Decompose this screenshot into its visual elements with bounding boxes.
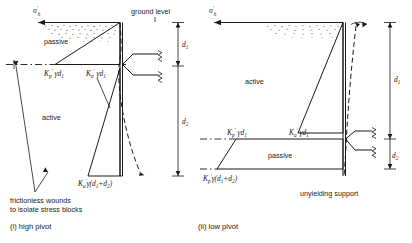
active-zone-label-high: active bbox=[42, 113, 61, 122]
depth-label-d2-low: d2 bbox=[392, 151, 399, 161]
passive-zone-label-low: passive bbox=[268, 151, 292, 160]
active-stress-block-high bbox=[88, 68, 120, 176]
depth-label-d1-low: d1 bbox=[394, 75, 401, 85]
active-stress-block-low bbox=[298, 23, 343, 134]
figure-container: σ′h ground level p bbox=[0, 0, 412, 243]
deflection-arrowhead-high bbox=[139, 172, 144, 176]
caption-low-pivot: (ii) low pivot bbox=[198, 222, 239, 231]
spring-symbol-upper-high bbox=[158, 51, 162, 62]
pressure-label-kp-gamma-d1-low: Kp′ γd1 bbox=[226, 127, 247, 138]
active-zone-label-low: active bbox=[245, 77, 264, 86]
caption-high-pivot: (i) high pivot bbox=[10, 222, 52, 231]
soil-stipple-hatch-right bbox=[268, 25, 339, 38]
note-line-1-high: frictionless wounds bbox=[10, 196, 71, 205]
stress-symbol-right: σ′h bbox=[209, 5, 217, 17]
prop-support-low bbox=[346, 128, 377, 158]
pressure-label-ka-gamma-d1d2-high: Ka′γ(d1+d2) bbox=[77, 178, 113, 189]
frictionless-wound-leaders-high bbox=[13, 60, 48, 192]
panel-low-pivot: σ′h active bbox=[198, 5, 401, 231]
depth-label-d2-high: d2 bbox=[182, 117, 189, 127]
spring-symbol-upper-low bbox=[372, 128, 376, 139]
ground-level-label: ground level bbox=[131, 7, 171, 16]
panel-high-pivot: σ′h ground level p bbox=[6, 5, 189, 231]
leader-line-ka-high bbox=[97, 78, 110, 108]
spring-symbol-lower-low bbox=[372, 147, 376, 158]
pressure-label-ka-gamma-d1-high: Ka′ γd1 bbox=[85, 68, 106, 79]
pressure-label-ka-gamma-d1-low: Ka′ γd1 bbox=[288, 127, 309, 138]
pressure-label-kp-gamma-d1d2-low: Kp′γ(d1+d2) bbox=[202, 173, 238, 184]
unyielding-support-label: unyielding support bbox=[300, 189, 358, 198]
prop-support-high bbox=[123, 51, 163, 83]
spring-symbol-lower-high bbox=[158, 72, 162, 83]
stress-symbol-left: σ′h bbox=[33, 5, 41, 17]
wall-deflected-shape-high bbox=[119, 23, 140, 173]
note-line-2-high: to isolate stress blocks bbox=[10, 205, 83, 214]
depth-label-d1-high: d1 bbox=[182, 40, 189, 50]
earth-pressure-diagram: σ′h ground level p bbox=[0, 0, 412, 243]
passive-zone-label-high: passive bbox=[44, 37, 68, 46]
pressure-label-kp-gamma-d1-high: Kp′ γd1 bbox=[43, 68, 64, 79]
stress-axis-arrow-right bbox=[214, 20, 343, 25]
